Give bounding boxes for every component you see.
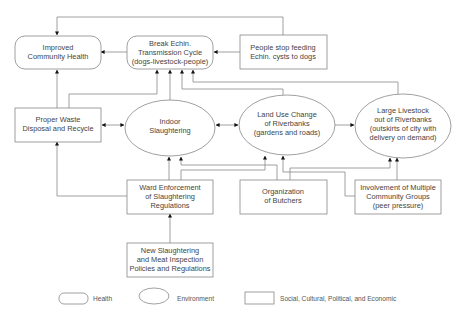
- node-people-stop[interactable]: People stop feedingEchin. cysts to dogs: [240, 35, 327, 69]
- legend-social-label: Social, Cultural, Political, and Economi…: [280, 295, 397, 302]
- node-proper-waste[interactable]: Proper WasteDisposal and Recycle: [15, 108, 101, 142]
- node-organization-butchers[interactable]: Organizationof Butchers: [240, 180, 327, 214]
- node-involvement-groups[interactable]: Involvement of MultipleCommunity Groups(…: [355, 180, 441, 214]
- svg-text:Organizationof Butchers: Organizationof Butchers: [262, 187, 304, 205]
- legend-health-label: Health: [93, 295, 112, 302]
- edge-organization-to-large-livestock: [290, 158, 390, 180]
- edge-land-use-to-break-cycle: [182, 70, 283, 95]
- legend-social-shape: [245, 292, 274, 304]
- node-new-policies[interactable]: New Slaughteringand Meat InspectionPolic…: [127, 243, 213, 277]
- edge-ward-to-land-use: [181, 156, 265, 180]
- edge-proper-waste-to-break-cycle: [69, 70, 157, 108]
- node-large-livestock[interactable]: Large Livestockout of Riverbanks(outskir…: [355, 94, 451, 158]
- legend-environment-label: Environment: [177, 295, 214, 302]
- diagram-canvas: ImprovedCommunity Health Break Echin.Tra…: [0, 0, 455, 319]
- node-indoor-slaughtering[interactable]: IndoorSlaughtering: [125, 100, 215, 156]
- legend: Health Environment Social, Cultural, Pol…: [59, 288, 397, 304]
- svg-text:New Slaughteringand Meat Inspe: New Slaughteringand Meat InspectionPolic…: [130, 246, 211, 273]
- edge-ward-to-proper-waste: [57, 142, 127, 196]
- legend-environment-shape: [139, 288, 169, 304]
- svg-text:People stop feedingEchin. cyst: People stop feedingEchin. cysts to dogs: [250, 43, 316, 61]
- edge-people-stop-to-improved-health: [57, 17, 283, 35]
- node-improved-health[interactable]: ImprovedCommunity Health: [15, 36, 101, 69]
- node-break-cycle[interactable]: Break Echin.Transmission Cycle(dogs-live…: [127, 36, 213, 69]
- connectors: [57, 17, 398, 243]
- node-land-use[interactable]: Land Use Changeof Riverbanks(gardens and…: [239, 95, 335, 155]
- legend-health-shape: [59, 293, 88, 304]
- svg-text:Large Livestockout of Riverban: Large Livestockout of Riverbanks(outskir…: [370, 106, 437, 142]
- edge-organization-to-indoor: [181, 157, 277, 180]
- edge-large-livestock-to-break-cycle: [193, 70, 398, 94]
- node-ward-enforcement[interactable]: Ward Enforcementof SlaughteringRegulatio…: [127, 180, 213, 214]
